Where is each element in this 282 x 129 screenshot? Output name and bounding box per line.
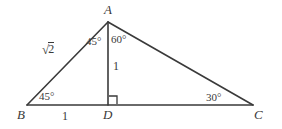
side-label-bd: 1 xyxy=(62,110,68,122)
geometry-figure: A B D C 45° 60° 45° 30° √2 1 1 xyxy=(0,0,282,129)
right-angle-marker-d xyxy=(109,96,117,104)
vertex-label-b: B xyxy=(17,108,25,121)
side-label-ad: 1 xyxy=(113,60,119,72)
angle-label-a-right: 60° xyxy=(111,34,126,45)
vertex-label-a: A xyxy=(104,3,112,16)
triangle-diagram-svg xyxy=(0,0,282,129)
angle-label-a-left: 45° xyxy=(86,36,101,47)
radicand: 2 xyxy=(48,42,54,55)
side-label-ab: √2 xyxy=(42,42,54,56)
vertex-label-c: C xyxy=(254,108,263,121)
segment-ac xyxy=(108,22,253,105)
angle-label-b: 45° xyxy=(39,91,54,102)
vertex-label-d: D xyxy=(103,108,112,121)
angle-label-c: 30° xyxy=(206,92,221,103)
